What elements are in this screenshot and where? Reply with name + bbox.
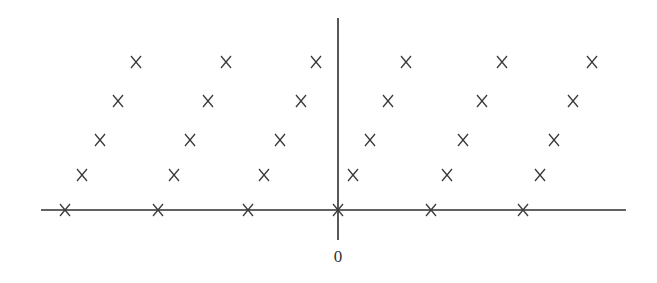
cross-marker-icon xyxy=(185,134,195,146)
cross-marker-icon xyxy=(296,95,306,107)
cross-marker-icon xyxy=(169,169,179,181)
cross-marker-icon xyxy=(587,56,597,68)
cross-marker-icon xyxy=(113,95,123,107)
cross-marker-icon xyxy=(365,134,375,146)
lattice-points xyxy=(60,56,597,216)
cross-marker-icon xyxy=(549,134,559,146)
cross-marker-icon xyxy=(442,169,452,181)
cross-marker-icon xyxy=(383,95,393,107)
cross-marker-icon xyxy=(458,134,468,146)
lattice-diagram: 0 xyxy=(0,0,657,283)
cross-marker-icon xyxy=(568,95,578,107)
cross-marker-icon xyxy=(477,95,487,107)
cross-marker-icon xyxy=(348,169,358,181)
cross-marker-icon xyxy=(203,95,213,107)
cross-marker-icon xyxy=(131,56,141,68)
cross-marker-icon xyxy=(275,134,285,146)
cross-marker-icon xyxy=(401,56,411,68)
cross-marker-icon xyxy=(221,56,231,68)
cross-marker-icon xyxy=(95,134,105,146)
cross-marker-icon xyxy=(259,169,269,181)
cross-marker-icon xyxy=(77,169,87,181)
cross-marker-icon xyxy=(535,169,545,181)
origin-label: 0 xyxy=(334,247,343,266)
cross-marker-icon xyxy=(311,56,321,68)
cross-marker-icon xyxy=(497,56,507,68)
